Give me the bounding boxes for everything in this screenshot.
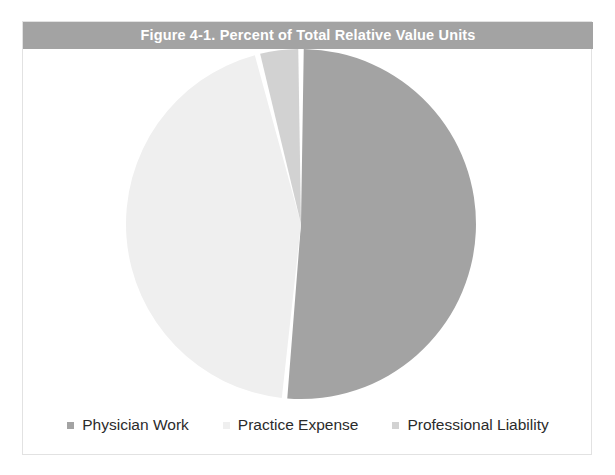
chart-legend: Physician Work Practice Expense Professi…: [23, 408, 593, 442]
pie-slice[interactable]: [287, 49, 476, 399]
legend-item-professional-liability[interactable]: Professional Liability: [392, 417, 548, 433]
pie-chart-plot-area: [23, 49, 593, 409]
figure-container: Figure 4-1. Percent of Total Relative Va…: [22, 21, 592, 455]
legend-swatch-icon-physician-work: [67, 422, 74, 429]
legend-label-professional-liability: Professional Liability: [407, 417, 548, 433]
legend-item-practice-expense[interactable]: Practice Expense: [223, 417, 359, 433]
figure-title: Figure 4-1. Percent of Total Relative Va…: [140, 28, 475, 43]
pie-chart: [23, 49, 593, 409]
legend-swatch-icon-professional-liability: [392, 422, 399, 429]
legend-label-practice-expense: Practice Expense: [238, 417, 359, 433]
pie-slice-group: [126, 49, 476, 399]
legend-swatch-icon-practice-expense: [223, 422, 230, 429]
figure-title-banner: Figure 4-1. Percent of Total Relative Va…: [23, 22, 593, 49]
legend-label-physician-work: Physician Work: [82, 417, 189, 433]
legend-item-physician-work[interactable]: Physician Work: [67, 417, 189, 433]
